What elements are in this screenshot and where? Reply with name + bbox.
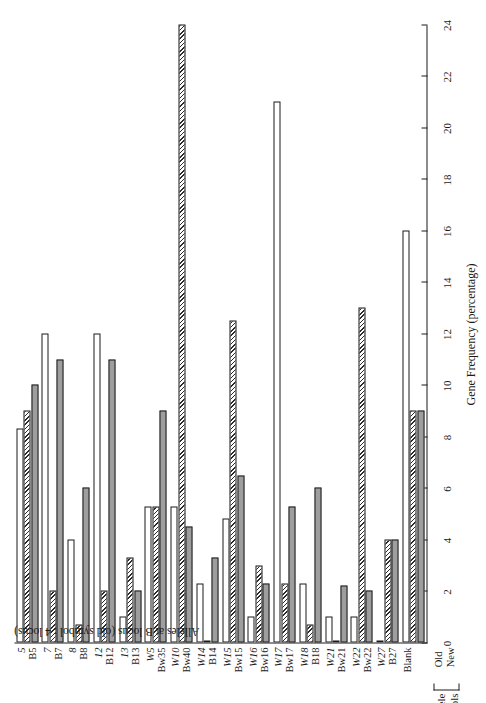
bar-gray	[391, 539, 398, 642]
category-label: W16Bw16	[247, 647, 269, 672]
axis-tick-label: 20	[440, 123, 452, 134]
category-label: W10Bw40	[169, 647, 191, 672]
bar-group: W27B27	[376, 24, 399, 642]
bar-hatch	[203, 640, 210, 642]
bar-gray	[262, 583, 269, 642]
category-label-new: Bw15	[232, 647, 243, 672]
category-label: Blank	[401, 647, 412, 672]
y-axis-title: Alleles at B locus (old symbol : 4 locus…	[14, 625, 199, 637]
bar-gray	[417, 410, 424, 642]
bar-white	[376, 640, 383, 642]
axis-tick-label: 10	[440, 380, 452, 391]
bar-gray	[211, 557, 218, 642]
bar-gray	[365, 591, 372, 643]
bar-gray	[56, 359, 63, 642]
bar-white	[93, 333, 100, 642]
bar-white	[402, 230, 409, 642]
axis-tick-label: 18	[440, 174, 452, 185]
category-label-new: Bw35	[155, 647, 166, 672]
bar-group: W15Bw15	[222, 24, 245, 642]
bar-hatch	[306, 624, 313, 642]
category-label: W5Bw35	[144, 647, 166, 672]
category-label-old: W27	[375, 647, 386, 666]
bar-white	[247, 616, 254, 642]
bar-gray	[340, 585, 347, 642]
category-label-new: Blank	[401, 647, 412, 672]
axis-tick-label: 4	[440, 537, 452, 543]
category-label: W27B27	[375, 647, 397, 666]
category-label-old: W10	[169, 647, 180, 672]
axis-tick-label: 6	[440, 486, 452, 492]
bar-hatch	[23, 410, 30, 642]
bar-group: W18B18	[299, 24, 322, 642]
category-label: 5B5	[15, 647, 37, 659]
bar-hatch	[409, 410, 416, 642]
bar-white	[144, 506, 151, 642]
category-label-old: 12	[92, 647, 103, 665]
bar-group: W17Bw17	[273, 24, 296, 642]
category-label: W21Bw21	[324, 647, 346, 672]
category-label-old: W5	[144, 647, 155, 672]
bar-gray	[82, 488, 89, 643]
bar-white	[41, 333, 48, 642]
category-label-new: B13	[129, 647, 140, 665]
category-label-old: 8	[66, 647, 77, 659]
category-label-new: Bw40	[180, 647, 191, 672]
category-label-old: 7	[41, 647, 52, 659]
legend-title-line: Allele	[434, 693, 447, 703]
bar-hatch	[229, 320, 236, 642]
category-label-new: B8	[77, 647, 88, 659]
category-label-old: W16	[247, 647, 258, 672]
category-label-new: B12	[103, 647, 114, 665]
axis-tick-label: 8	[440, 434, 452, 440]
axis-tick-label: 14	[440, 277, 452, 288]
bar-group: W10Bw40	[170, 24, 193, 642]
category-label-new: B7	[52, 647, 63, 659]
category-label-old: W14	[195, 647, 206, 666]
category-label-old: 13	[118, 647, 129, 665]
bar-white	[350, 616, 357, 642]
bar-white	[325, 616, 332, 642]
category-label: W14B14	[195, 647, 217, 666]
axis-tick-label: 24	[440, 20, 452, 31]
category-label: 8B8	[66, 647, 88, 659]
axis-tick-label: 2	[440, 589, 452, 595]
category-label-old: W18	[298, 647, 309, 666]
bar-hatch	[178, 24, 185, 642]
legend-row-label: New	[444, 647, 456, 667]
category-label: W15Bw15	[221, 647, 243, 672]
figure: 024681012141618202224 5B57B78B812B1213B1…	[0, 0, 486, 703]
bar-hatch	[255, 565, 262, 642]
bar-group: W5Bw35	[144, 24, 167, 642]
bar-white	[170, 506, 177, 642]
bar-group: 8B8	[67, 24, 90, 642]
bar-gray	[314, 488, 321, 643]
category-label-new: Bw16	[258, 647, 269, 672]
category-label: W18B18	[298, 647, 320, 666]
bar-group: 13B13	[119, 24, 142, 642]
bar-group: W22Bw22	[350, 24, 373, 642]
plot-area: 024681012141618202224 5B57B78B812B1213B1…	[14, 25, 426, 643]
rotated-figure-wrapper: 024681012141618202224 5B57B78B812B1213B1…	[0, 0, 486, 703]
bar-group: W16Bw16	[247, 24, 270, 642]
bar-hatch	[358, 307, 365, 642]
bar-hatch	[281, 583, 288, 642]
bar-group: W21Bw21	[325, 24, 348, 642]
axis-tick-label: 0	[440, 640, 452, 646]
category-label-old: W22	[350, 647, 361, 672]
bar-gray	[159, 410, 166, 642]
bar-gray	[31, 385, 38, 643]
category-label-old: W15	[221, 647, 232, 672]
category-label-new: Bw17	[283, 647, 294, 672]
category-label: W22Bw22	[350, 647, 372, 672]
bar-hatch	[384, 539, 391, 642]
bar-group: 7B7	[41, 24, 64, 642]
bar-gray	[288, 506, 295, 642]
legend-title-line: symbols	[447, 693, 460, 703]
category-label-old: W21	[324, 647, 335, 672]
bar-gray	[108, 359, 115, 642]
bar-white	[299, 583, 306, 642]
category-label-new: B27	[386, 647, 397, 666]
category-label-old: W17	[272, 647, 283, 672]
category-label: 12B12	[92, 647, 114, 665]
